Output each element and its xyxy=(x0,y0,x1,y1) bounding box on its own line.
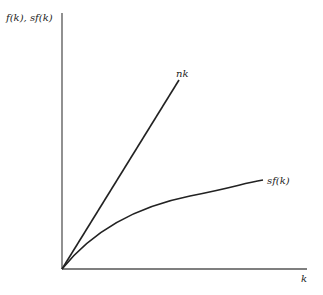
y-axis-label: f(k), sf(k) xyxy=(5,12,53,23)
x-axis-label: k xyxy=(301,273,307,284)
solow-diagram: f(k), sf(k) nk sf(k) k xyxy=(0,0,323,295)
nk-label: nk xyxy=(176,68,189,79)
nk-line xyxy=(62,80,179,269)
sfk-curve xyxy=(62,180,263,269)
sfk-label: sf(k) xyxy=(267,175,290,186)
